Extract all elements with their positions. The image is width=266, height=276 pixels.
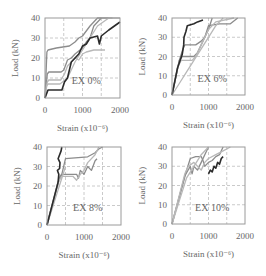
chart-ex-0: 010203040010002000Strain (x10⁻⁶)Load (kN… (0, 0, 133, 138)
y-tick-label: 20 (33, 181, 43, 191)
y-tick-label: 0 (163, 219, 168, 229)
x-axis-label: Strain (x10⁻⁶) (183, 120, 234, 130)
x-tick-label: 1000 (75, 232, 94, 242)
y-tick-label: 40 (158, 13, 168, 23)
series-gauge-1 (172, 20, 203, 95)
y-tick-label: 10 (33, 201, 43, 211)
y-tick-label: 40 (31, 13, 41, 23)
x-tick-label: 2000 (112, 232, 131, 242)
y-tick-label: 30 (158, 161, 168, 171)
series-gauge-1 (209, 157, 224, 174)
y-tick-label: 30 (158, 32, 168, 42)
y-tick-label: 10 (158, 200, 168, 210)
y-tick-label: 40 (158, 142, 168, 152)
y-axis-label: Load (kN) (137, 38, 147, 76)
y-axis-label: Load (kN) (137, 167, 147, 205)
y-tick-label: 20 (31, 53, 41, 63)
panel-annotation: EX 6% (198, 73, 227, 84)
y-tick-label: 10 (158, 71, 168, 81)
x-tick-label: 2000 (236, 231, 255, 241)
panel-ex-6: 010203040010002000Strain (x10⁻⁶)Load (kN… (133, 0, 266, 138)
y-tick-label: 30 (31, 33, 41, 43)
y-tick-label: 10 (31, 73, 41, 83)
y-axis-label: Load (kN) (12, 167, 22, 205)
y-tick-label: 30 (33, 162, 43, 172)
x-tick-label: 2000 (236, 102, 255, 112)
y-tick-label: 0 (38, 220, 43, 230)
x-tick-label: 1000 (200, 102, 219, 112)
y-tick-label: 0 (163, 90, 168, 100)
panel-ex-8: 010203040010002000Strain (x10⁻⁶)Load (kN… (0, 138, 133, 276)
y-tick-label: 40 (33, 142, 43, 152)
chart-ex-6: 010203040010002000Strain (x10⁻⁶)Load (kN… (133, 0, 266, 138)
x-tick-label: 0 (45, 232, 50, 242)
x-tick-label: 1000 (200, 231, 219, 241)
panel-ex-0: 010203040010002000Strain (x10⁻⁶)Load (kN… (0, 0, 133, 138)
panel-ex-10: 010203040010002000Strain (x10⁻⁶)Load (kN… (133, 138, 266, 276)
x-tick-label: 0 (170, 102, 175, 112)
y-tick-label: 20 (158, 52, 168, 62)
x-axis-label: Strain (x10⁻⁶) (183, 249, 234, 259)
panel-annotation: EX 10% (195, 202, 229, 213)
panel-annotation: EX 8% (73, 202, 102, 213)
y-tick-label: 0 (36, 93, 41, 103)
chart-ex-10: 010203040010002000Strain (x10⁻⁶)Load (kN… (133, 138, 266, 276)
x-tick-label: 2000 (111, 105, 130, 115)
y-tick-label: 20 (158, 181, 168, 191)
x-axis-label: Strain (x10⁻⁶) (58, 250, 109, 260)
x-tick-label: 0 (43, 105, 48, 115)
x-tick-label: 1000 (74, 105, 93, 115)
chart-ex-8: 010203040010002000Strain (x10⁻⁶)Load (kN… (0, 138, 133, 276)
series-gauge-3 (47, 159, 97, 225)
y-axis-label: Load (kN) (10, 39, 20, 77)
panel-annotation: EX 0% (72, 75, 101, 86)
x-tick-label: 0 (170, 231, 175, 241)
x-axis-label: Strain (x10⁻⁶) (57, 123, 108, 133)
